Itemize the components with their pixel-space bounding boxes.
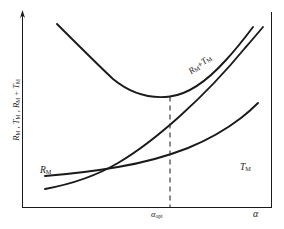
curve-label-tm: TM [240, 163, 251, 173]
axis-frame [22, 12, 272, 208]
curve-label-rm: RM [40, 166, 51, 176]
y-axis-label: RM , TM , RM + TM [12, 63, 22, 157]
x-axis-label: α [253, 209, 258, 219]
figure-container: · · · · · · · · · RM , TM , RM + TM RM+T… [0, 0, 284, 229]
x-axis-tick-label-alpha-opt: αopt [151, 210, 163, 220]
curve-rm-plus-tm [57, 24, 253, 97]
plot-svg [0, 0, 284, 229]
curve-rm [45, 27, 263, 189]
